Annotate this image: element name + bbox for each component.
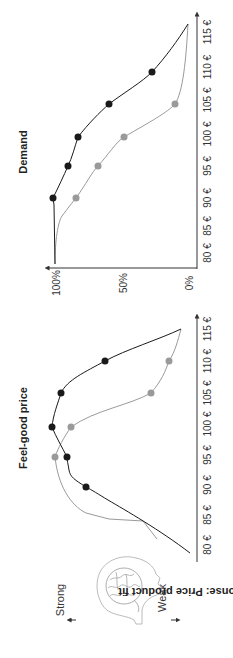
svg-text:80 €: 80 € xyxy=(202,243,213,263)
svg-text:95 €: 95 € xyxy=(202,156,213,176)
svg-text:80 €: 80 € xyxy=(202,535,213,555)
demand-chart-title: Demand xyxy=(17,130,29,173)
svg-text:105 €: 105 € xyxy=(202,87,213,112)
svg-text:0%: 0% xyxy=(184,276,195,291)
y-axis-label: Brain response: Price product fit xyxy=(118,586,233,598)
svg-text:110 €: 110 € xyxy=(202,54,213,79)
feel-good-price-chart: Feel-good price 80 € 85 € 90 € 95 € 100 … xyxy=(17,316,213,562)
svg-text:105 €: 105 € xyxy=(202,380,213,405)
feel-good-light-line xyxy=(55,329,181,539)
svg-text:115 €: 115 € xyxy=(202,19,213,44)
feel-good-chart-title: Feel-good price xyxy=(17,387,29,469)
demand-chart: Demand 80 € 85 € 90 € 95 € 100 € 105 € 1… xyxy=(17,14,213,296)
svg-text:90 €: 90 € xyxy=(202,475,213,495)
strong-label: Strong xyxy=(54,584,66,616)
svg-text:85 €: 85 € xyxy=(202,216,213,236)
svg-text:115 €: 115 € xyxy=(202,316,213,341)
svg-text:100%: 100% xyxy=(51,270,62,296)
svg-text:85 €: 85 € xyxy=(202,505,213,525)
demand-percent-ticks: 0% 50% 100% xyxy=(51,270,195,296)
svg-text:100 €: 100 € xyxy=(202,411,213,436)
svg-text:95 €: 95 € xyxy=(202,445,213,465)
svg-text:90 €: 90 € xyxy=(202,188,213,208)
svg-text:110 €: 110 € xyxy=(202,348,213,373)
brain-response-scale: Strong Weak Brain response: Price produc… xyxy=(54,557,233,624)
demand-light-markers xyxy=(73,101,179,202)
feel-good-price-ticks: 80 € 85 € 90 € 95 € 100 € 105 € 110 € 11… xyxy=(202,316,213,554)
demand-dark-line xyxy=(53,24,188,264)
svg-text:50%: 50% xyxy=(118,273,129,293)
figure-canvas: Demand 80 € 85 € 90 € 95 € 100 € 105 € 1… xyxy=(0,0,233,658)
demand-price-ticks: 80 € 85 € 90 € 95 € 100 € 105 € 110 € 11… xyxy=(202,19,213,262)
demand-light-line xyxy=(55,24,188,264)
feel-good-light-markers xyxy=(52,358,173,461)
svg-text:100 €: 100 € xyxy=(202,121,213,146)
demand-dark-markers xyxy=(50,69,156,202)
